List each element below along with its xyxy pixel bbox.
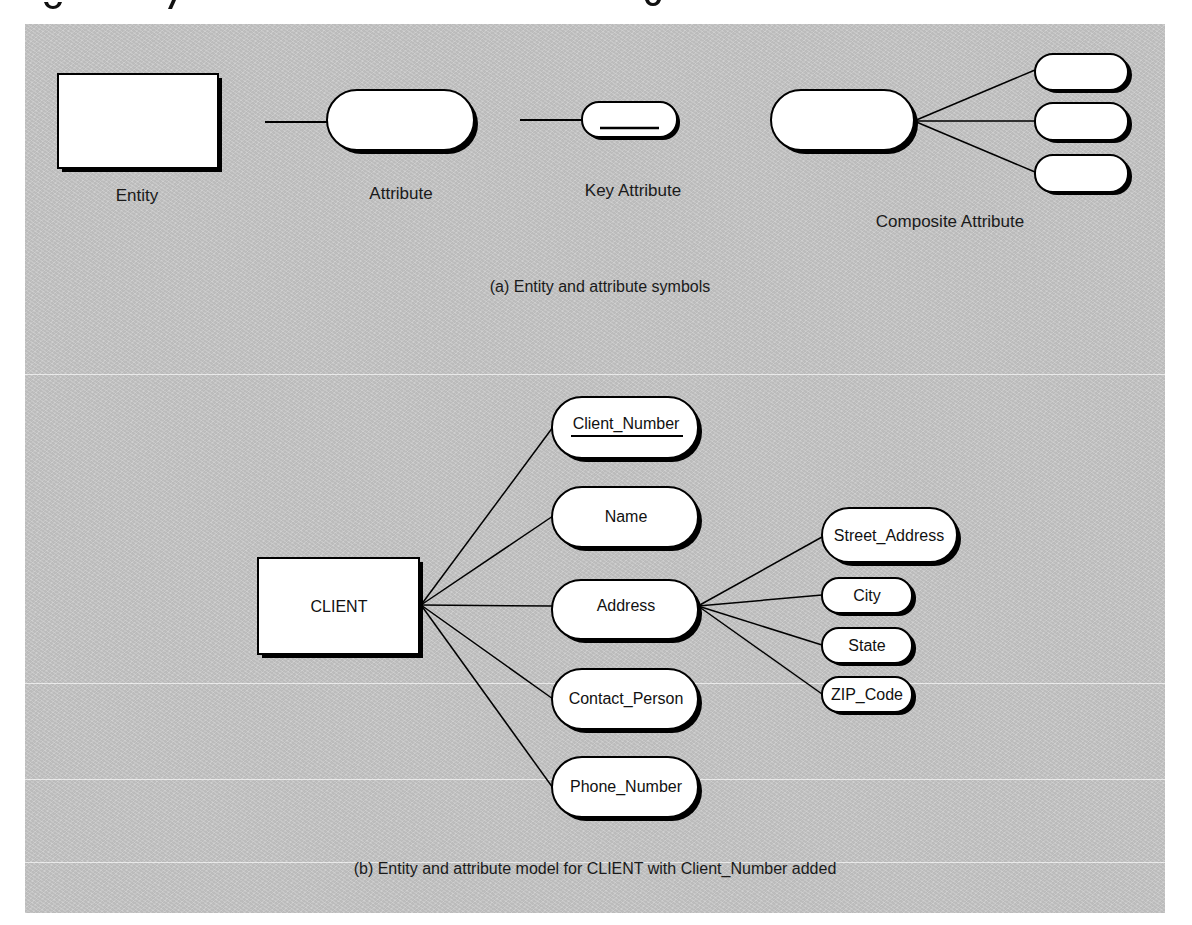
component-state: State	[822, 628, 916, 666]
caption-b: (b) Entity and attribute model for CLIEN…	[354, 860, 837, 878]
legend-key-attribute-symbol	[520, 102, 680, 140]
legend-composite-attribute-label: Composite Attribute	[876, 212, 1024, 231]
attribute-client-number: Client_Number	[552, 397, 702, 462]
entity-client-label: CLIENT	[311, 598, 368, 615]
component-zip-code-label: ZIP_Code	[831, 686, 903, 704]
component-state-label: State	[848, 637, 885, 654]
attribute-address-label: Address	[597, 597, 656, 614]
legend-attribute-symbol	[265, 90, 478, 154]
caption-a: (a) Entity and attribute symbols	[490, 278, 711, 295]
attribute-contact-person: Contact_Person	[552, 669, 702, 733]
legend-composite-attribute-symbol	[771, 54, 1132, 195]
attribute-name: Name	[552, 487, 702, 551]
component-street-address: Street_Address	[822, 508, 961, 566]
component-street-address-label: Street_Address	[834, 527, 944, 545]
clipped-header-fragment	[44, 0, 661, 9]
attribute-phone-number: Phone_Number	[552, 757, 702, 821]
component-city: City	[822, 578, 916, 616]
attribute-client-number-label: Client_Number	[573, 415, 680, 433]
attribute-name-label: Name	[605, 508, 648, 525]
er-diagram: Entity Attribute Key Attribute Composite…	[0, 0, 1192, 925]
attribute-address: Address	[552, 580, 702, 643]
attribute-contact-person-label: Contact_Person	[569, 690, 684, 708]
component-city-label: City	[853, 587, 881, 604]
legend-attribute-label: Attribute	[369, 184, 432, 203]
attribute-phone-number-label: Phone_Number	[570, 778, 683, 796]
entity-client: CLIENT	[258, 558, 423, 658]
legend-key-attribute-label: Key Attribute	[585, 181, 681, 200]
legend-entity-symbol	[58, 74, 222, 172]
legend-entity-label: Entity	[116, 186, 159, 205]
component-zip-code: ZIP_Code	[822, 677, 916, 715]
